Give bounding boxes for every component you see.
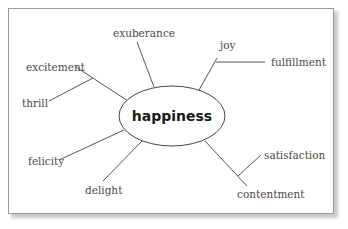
- line-felicity: [59, 130, 124, 160]
- label-thrill: thrill: [22, 97, 49, 109]
- label-satisfaction: satisfaction: [264, 149, 326, 161]
- center-label: happiness: [132, 108, 212, 124]
- line-thrill: [49, 78, 93, 101]
- label-excitement: excitement: [26, 61, 86, 73]
- label-delight: delight: [85, 184, 123, 196]
- line-exuberance: [137, 42, 154, 87]
- line-satisfaction: [238, 155, 261, 176]
- line-delight: [103, 141, 142, 181]
- label-felicity: felicity: [28, 155, 64, 167]
- label-exuberance: exuberance: [113, 27, 175, 39]
- line-joy: [199, 58, 217, 90]
- mind-map: happiness exuberance joy fulfillment exc…: [0, 0, 348, 229]
- label-fulfillment: fulfillment: [271, 56, 327, 68]
- line-contentment: [205, 141, 247, 186]
- label-joy: joy: [218, 39, 236, 51]
- label-contentment: contentment: [237, 188, 305, 200]
